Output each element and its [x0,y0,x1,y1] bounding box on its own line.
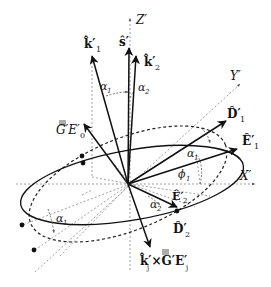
solid-ellipse [15,131,250,239]
angle-alpha2-bottom: α 2 [150,198,162,213]
svg-text:1: 1 [107,87,111,95]
label-g-e0: G′E′ 0 [56,121,85,140]
angle-alpha1-right: α 1 [187,147,198,162]
angle-alpha1-left: α 1 [56,212,67,227]
svg-text:k̂′: k̂′ [143,53,156,69]
k1-vector [92,56,128,184]
g-e0-vector [84,124,128,184]
label-s: ŝ′ [119,35,129,49]
svg-text:2: 2 [155,63,160,72]
label-k1: k̂′ 1 [83,35,101,54]
svg-text:ϕ: ϕ [178,168,186,181]
angle-alpha2-top: α 2 [138,81,150,96]
svg-text:2: 2 [185,230,190,239]
svg-text:Ê′: Ê′ [172,189,183,203]
label-e1: Ê′ 1 [242,133,259,151]
label-e2: Ê′ 2 [172,189,187,205]
svg-text:1: 1 [194,154,198,162]
svg-text:j: j [146,264,149,272]
svg-text:1: 1 [96,45,101,54]
polarization-diagram: Z′ Y′ X′ k̂′ 1 ŝ′ k̂′ 2 G′E′ 0 D̂′ 1 Ê′ … [0,0,271,287]
svg-text:k̂′: k̂′ [83,35,96,51]
svg-text:2: 2 [183,197,187,205]
svg-text:1: 1 [254,142,259,151]
svg-text:D̂′: D̂′ [227,106,241,121]
label-d1: D̂′ 1 [227,106,245,124]
svg-text:ŝ′: ŝ′ [119,35,129,49]
z-axis-label: Z′ [135,13,147,27]
label-d2: D̂′ 2 [173,221,190,239]
label-kj-cross: k̂′×G′E′ j j [139,250,188,272]
svg-text:0: 0 [80,131,85,140]
svg-text:2: 2 [156,205,162,213]
svg-text:1: 1 [63,219,67,227]
svg-text:Ê′: Ê′ [242,133,254,148]
x-axis-label: X′ [239,169,252,183]
svg-text:j: j [185,264,188,272]
label-k2: k̂′ 2 [143,53,160,72]
svg-text:1: 1 [186,175,190,183]
angle-phi1: ϕ 1 [178,168,190,183]
svg-text:2: 2 [144,88,150,96]
y-axis-label: Y′ [230,69,241,83]
angle-alpha1-top: α 1 [100,80,111,95]
svg-text:1: 1 [240,115,245,124]
